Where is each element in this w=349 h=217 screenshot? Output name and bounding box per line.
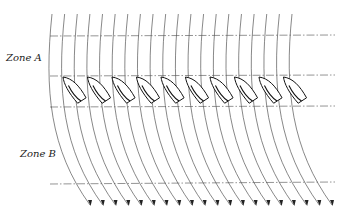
streamline — [289, 14, 332, 205]
streamline — [277, 14, 320, 205]
boat-hull — [183, 73, 209, 104]
streamline — [188, 14, 230, 205]
streamline — [62, 14, 103, 205]
streamline — [175, 14, 217, 205]
streamline — [163, 14, 205, 205]
reference-line-zone-a-upper — [50, 75, 335, 76]
streamline — [112, 14, 154, 205]
streamline — [264, 14, 307, 205]
zone-a-label: Zone A — [5, 52, 42, 63]
boat — [60, 73, 86, 104]
reference-lines — [50, 35, 335, 184]
streamline — [137, 14, 179, 205]
boat — [158, 73, 184, 104]
streamline — [201, 14, 243, 205]
boat — [281, 73, 307, 104]
boats — [60, 73, 306, 104]
streamline — [87, 14, 128, 205]
boat — [134, 73, 160, 104]
boat — [207, 73, 233, 104]
boat-hull — [158, 73, 184, 104]
streamline — [49, 14, 90, 205]
boat — [232, 73, 258, 104]
boat-hull — [109, 73, 135, 104]
boat — [256, 73, 282, 104]
streamline — [251, 14, 294, 205]
streamlines — [49, 14, 334, 206]
boat-hull — [256, 73, 282, 104]
boat-hull — [134, 73, 160, 104]
boat-hull — [281, 73, 307, 104]
boat-hull — [207, 73, 233, 104]
zone-b-label: Zone B — [19, 148, 56, 159]
boat-hull — [60, 73, 86, 104]
streamline — [100, 14, 141, 205]
reference-line-top — [50, 35, 335, 36]
streamline — [74, 14, 115, 205]
flow-diagram: Zone A Zone B — [0, 0, 349, 217]
streamline — [239, 14, 281, 205]
streamline — [150, 14, 192, 205]
boat — [109, 73, 135, 104]
boat — [183, 73, 209, 104]
streamline — [125, 14, 167, 205]
streamline — [226, 14, 268, 205]
boat-hull — [232, 73, 258, 104]
streamline — [213, 14, 255, 205]
